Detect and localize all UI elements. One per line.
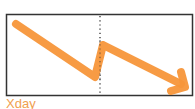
diagram-canvas <box>0 0 195 109</box>
xday-label: Xday <box>6 97 36 109</box>
